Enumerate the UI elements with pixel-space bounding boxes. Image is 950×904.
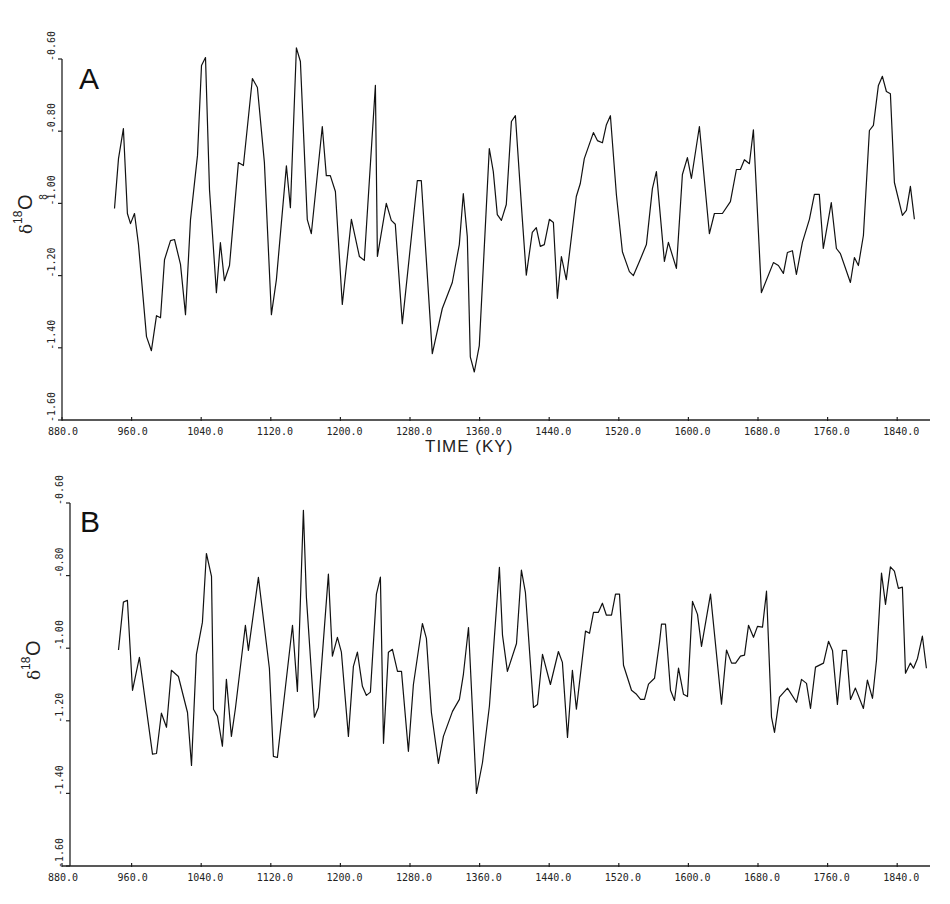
y-tick-label: -0.80 [46, 103, 57, 133]
y-tick-label: -0.60 [54, 475, 65, 505]
x-tick-label: 1120.0 [257, 426, 293, 437]
oxygen-symbol: O [14, 194, 36, 210]
x-tick-label: 1200.0 [326, 426, 362, 437]
superscript-18: 18 [11, 210, 25, 224]
x-tick-label: 1280.0 [396, 426, 432, 437]
x-tick-label: 1520.0 [605, 426, 641, 437]
x-tick-label: 960.0 [118, 426, 148, 437]
x-tick-label: 1200.0 [326, 872, 362, 883]
panel-a-y-ticks: -0.60-0.80-1.00-1.20-1.40-1.60 [46, 31, 62, 422]
x-tick-label: 880.0 [48, 426, 78, 437]
x-tick-label: 1760.0 [814, 426, 850, 437]
x-tick-label: 1600.0 [674, 872, 710, 883]
x-tick-label: 1840.0 [883, 872, 919, 883]
figure-caption-fragment [90, 892, 890, 904]
panel-b-y-axis-title: δ 18 O [19, 640, 44, 680]
y-tick-label: -1.20 [46, 247, 57, 277]
y-tick-label: -1.60 [54, 838, 65, 868]
x-tick-label: 1840.0 [883, 426, 919, 437]
stray-mark: 8 [38, 194, 49, 200]
y-tick-label: -1.00 [54, 620, 65, 650]
x-tick-label: 1360.0 [466, 426, 502, 437]
panel-b-label: B [80, 505, 100, 538]
x-tick-label: 1520.0 [605, 872, 641, 883]
x-tick-label: 880.0 [48, 872, 78, 883]
x-tick-label: 1680.0 [744, 426, 780, 437]
y-tick-label: -1.40 [54, 765, 65, 795]
x-tick-label: 1280.0 [396, 872, 432, 883]
panel-b-y-ticks: -0.60-0.80-1.00-1.20-1.40-1.60 [54, 475, 70, 868]
series-b-line [119, 510, 927, 793]
panel-a-y-axis-title: δ 18 O [11, 194, 36, 234]
x-tick-label: 1040.0 [187, 426, 223, 437]
x-tick-label: 1040.0 [187, 872, 223, 883]
y-tick-label: -0.80 [54, 547, 65, 577]
x-tick-label: 1120.0 [257, 872, 293, 883]
series-a-line [115, 48, 915, 372]
panel-a: -0.60-0.80-1.00-1.20-1.40-1.60 880.0960.… [11, 31, 930, 456]
panel-a-label: A [79, 62, 99, 95]
delta-symbol: δ [24, 670, 44, 680]
x-tick-label: 1600.0 [674, 426, 710, 437]
oxygen-symbol: O [22, 640, 44, 656]
y-tick-label: -1.60 [46, 392, 57, 422]
y-tick-label: -1.40 [46, 320, 57, 350]
panel-b: -0.60-0.80-1.00-1.20-1.40-1.60 880.0960.… [19, 475, 930, 883]
x-tick-label: 1680.0 [744, 872, 780, 883]
delta-symbol: δ [16, 224, 36, 234]
figure-canvas: -0.60-0.80-1.00-1.20-1.40-1.60 880.0960.… [0, 0, 950, 904]
y-tick-label: -0.60 [46, 31, 57, 61]
x-axis-title: TIME (KY) [425, 437, 513, 456]
x-tick-label: 1360.0 [466, 872, 502, 883]
x-tick-label: 960.0 [118, 872, 148, 883]
y-tick-label: -1.20 [54, 693, 65, 723]
x-tick-label: 1760.0 [814, 872, 850, 883]
superscript-18: 18 [19, 656, 33, 670]
x-tick-label: 1440.0 [535, 426, 571, 437]
x-tick-label: 1440.0 [535, 872, 571, 883]
